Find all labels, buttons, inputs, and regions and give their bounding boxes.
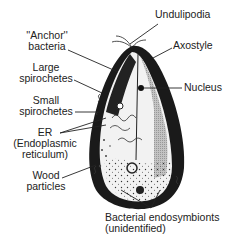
- label-small-spirochetes-line2: spirochetes: [16, 106, 76, 117]
- label-large-spirochetes-line2: spirochetes: [16, 73, 76, 84]
- nucleus: [138, 85, 144, 91]
- label-undulipodia: Undulipodia: [155, 9, 210, 20]
- leader-undulipodia: [130, 24, 158, 44]
- label-small-spirochetes: Small spirochetes: [16, 95, 76, 117]
- undulipodia: [112, 36, 146, 48]
- label-anchor-bacteria: ''Anchor'' bacteria: [18, 30, 76, 52]
- label-anchor-bacteria-line2: bacteria: [18, 41, 76, 52]
- bacteria-clump: [136, 186, 144, 194]
- label-wood-particles: Wood particles: [18, 170, 74, 192]
- label-wood-particles-line2: particles: [18, 181, 74, 192]
- leader-axostyle: [153, 48, 172, 58]
- label-nucleus: Nucleus: [184, 82, 222, 93]
- label-large-spirochetes: Large spirochetes: [16, 62, 76, 84]
- label-endosymbionts: Bacterial endosymbionts (unidentified): [105, 212, 219, 234]
- label-axostyle: Axostyle: [173, 40, 213, 51]
- bacteria-clump: [117, 103, 123, 109]
- label-endosymbionts-line2: (unidentified): [105, 223, 219, 234]
- leader-large-spirochetes: [74, 80, 102, 93]
- label-er-line3: reticulum): [12, 149, 78, 160]
- label-er: ER (Endoplasmic reticulum): [12, 127, 78, 160]
